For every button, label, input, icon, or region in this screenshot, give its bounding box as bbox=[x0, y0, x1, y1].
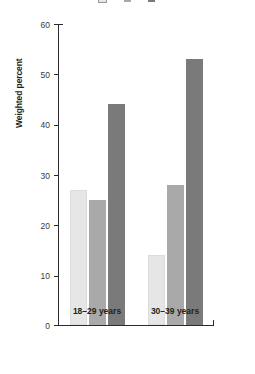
y-tick-10: 10 bbox=[54, 276, 58, 277]
y-tick-label-50: 50 bbox=[41, 70, 50, 80]
y-tick-30: 30 bbox=[54, 175, 58, 176]
y-tick-50: 50 bbox=[54, 74, 58, 75]
legend-item-2 bbox=[124, 0, 134, 2]
bar bbox=[108, 104, 125, 325]
bar-chart: Weighted percent 60 50 40 30 20 10 0 18–… bbox=[0, 0, 255, 374]
bars-layer bbox=[59, 24, 214, 325]
chart-legend bbox=[0, 0, 255, 3]
y-axis-title: Weighted percent bbox=[14, 18, 24, 128]
legend-item-1 bbox=[98, 0, 110, 3]
y-tick-label-60: 60 bbox=[41, 20, 50, 30]
y-tick-40: 40 bbox=[54, 125, 58, 126]
bar-group bbox=[137, 24, 215, 325]
y-tick-0: 0 bbox=[54, 325, 58, 326]
legend-swatch-1 bbox=[98, 0, 107, 3]
legend-swatch-3 bbox=[148, 0, 155, 2]
y-tick-label-0: 0 bbox=[45, 321, 50, 331]
y-tick-60: 60 bbox=[54, 24, 58, 25]
x-category-label-2: 30–39 years bbox=[136, 306, 214, 316]
y-tick-label-20: 20 bbox=[41, 221, 50, 231]
bar-group bbox=[59, 24, 137, 325]
y-tick-label-40: 40 bbox=[41, 120, 50, 130]
y-tick-label-30: 30 bbox=[41, 171, 50, 181]
bar bbox=[167, 185, 184, 325]
y-tick-20: 20 bbox=[54, 225, 58, 226]
bar bbox=[186, 59, 203, 325]
x-category-label-1: 18–29 years bbox=[58, 306, 136, 316]
legend-item-3 bbox=[148, 0, 158, 2]
legend-swatch-2 bbox=[124, 0, 131, 2]
bar bbox=[70, 190, 87, 325]
y-tick-label-10: 10 bbox=[41, 271, 50, 281]
plot-area: 60 50 40 30 20 10 0 bbox=[58, 24, 214, 326]
